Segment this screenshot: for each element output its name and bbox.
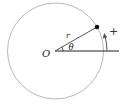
radius-line	[55, 27, 97, 51]
angle-label: θ	[69, 42, 74, 52]
direction-arrow-arc	[105, 37, 107, 51]
positive-direction-label: +	[109, 25, 118, 38]
radius-label: r	[66, 31, 71, 40]
angle-arc	[62, 47, 63, 51]
point-marker	[95, 25, 100, 30]
direction-arrowhead-icon	[103, 33, 108, 39]
polar-diagram: O r θ +	[0, 0, 128, 110]
origin-label: O	[42, 48, 50, 59]
